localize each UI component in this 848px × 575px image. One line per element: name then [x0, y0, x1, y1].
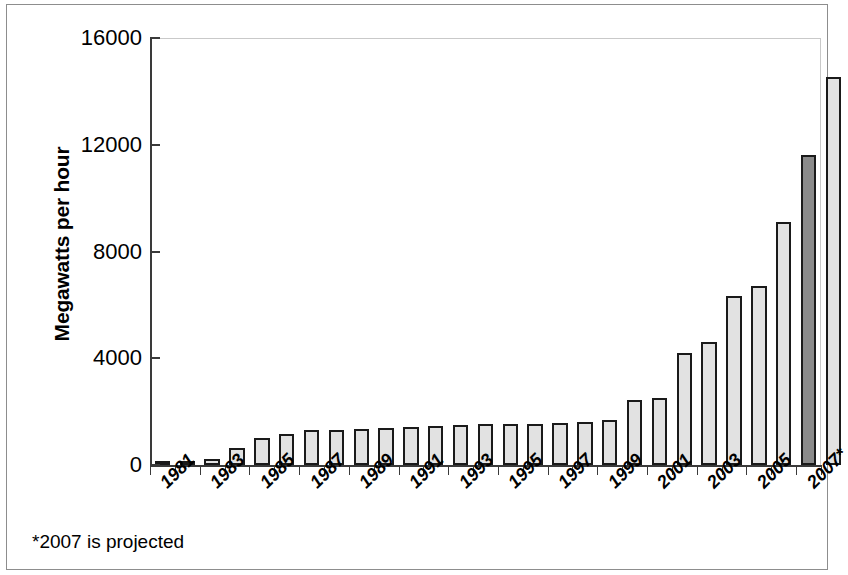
x-tick-mark [399, 465, 400, 475]
x-tick-mark [697, 465, 698, 475]
x-tick-mark [150, 465, 151, 475]
x-tick-mark [349, 465, 350, 475]
bar [453, 425, 468, 465]
bar [701, 342, 716, 465]
bar [602, 420, 617, 465]
y-tick-label: 0 [130, 452, 142, 478]
bar [552, 423, 567, 465]
bar [776, 222, 791, 465]
bar [354, 429, 369, 465]
y-tick-label: 8000 [93, 239, 142, 265]
bar [652, 398, 667, 465]
y-tick-mark [150, 464, 160, 466]
x-tick-mark [647, 465, 648, 475]
x-tick-mark [498, 465, 499, 475]
y-tick-mark [150, 37, 160, 39]
x-tick-mark [746, 465, 747, 475]
bar [503, 424, 518, 465]
x-tick-mark [548, 465, 549, 475]
y-tick-mark [150, 144, 160, 146]
x-tick-mark [249, 465, 250, 475]
footnote: *2007 is projected [32, 531, 184, 553]
y-axis-ticks: 0400080001200016000 [36, 0, 142, 575]
bar [751, 286, 766, 465]
bars-layer [150, 38, 821, 465]
x-tick-mark [200, 465, 201, 475]
x-tick-mark [448, 465, 449, 475]
bar [254, 438, 269, 465]
y-tick-label: 12000 [81, 132, 142, 158]
y-tick-label: 16000 [81, 25, 142, 51]
bar [204, 459, 219, 465]
y-tick-label: 4000 [93, 345, 142, 371]
x-tick-mark [796, 465, 797, 475]
bar [403, 427, 418, 465]
x-tick-mark [597, 465, 598, 475]
bar [826, 77, 841, 465]
x-tick-mark [299, 465, 300, 475]
bar [677, 353, 692, 465]
y-tick-mark [150, 251, 160, 253]
bar [726, 296, 741, 465]
bar [304, 430, 319, 465]
bar [801, 155, 816, 465]
y-tick-mark [150, 357, 160, 359]
